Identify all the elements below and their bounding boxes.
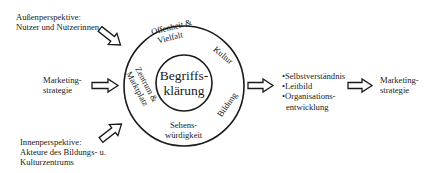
left-marketing-line2: strategie bbox=[43, 85, 82, 95]
arrow-right-1-icon bbox=[248, 79, 273, 92]
outer-perspective-desc: Nutzer und Nutzerinnen bbox=[16, 22, 99, 32]
left-marketing-strategy-label: Marketing- strategie bbox=[43, 75, 82, 95]
outcome-item: entwicklung bbox=[282, 102, 345, 112]
arrow-right-2-icon bbox=[348, 79, 372, 92]
right-marketing-line1: Marketing- bbox=[380, 75, 419, 85]
arrow-top-left-icon bbox=[96, 23, 125, 50]
right-marketing-strategy-label: Marketing- strategie bbox=[380, 75, 419, 95]
right-marketing-line2: strategie bbox=[380, 85, 419, 95]
inner-perspective-title: Innenperspektive: bbox=[20, 137, 106, 147]
outcomes-list: •Selbstverständnis •Leitbild •Organisati… bbox=[282, 71, 345, 112]
outer-perspective-label: Außenperspektive: Nutzer und Nutzerinnen bbox=[16, 12, 99, 32]
outer-perspective-title: Außenperspektive: bbox=[16, 12, 99, 22]
ring-segment-landmark: Sehens- würdigkeit bbox=[165, 120, 202, 140]
ring-landmark-line1: Sehens- bbox=[165, 120, 202, 130]
outcome-item: •Leitbild bbox=[282, 81, 345, 91]
inner-perspective-desc-1: Akteure des Bildungs- u. bbox=[20, 147, 106, 157]
outcome-item: •Selbstverständnis bbox=[282, 71, 345, 81]
core-label: Begriffs- klärung bbox=[156, 68, 212, 98]
core-line1: Begriffs- bbox=[156, 68, 212, 83]
left-marketing-line1: Marketing- bbox=[43, 75, 82, 85]
outcome-item: •Organisations- bbox=[282, 91, 345, 101]
inner-perspective-desc-2: Kulturzentrums bbox=[20, 157, 106, 167]
ring-landmark-line2: würdigkeit bbox=[165, 130, 202, 140]
core-line2: klärung bbox=[156, 83, 212, 98]
arrow-left-icon bbox=[92, 79, 118, 92]
inner-perspective-label: Innenperspektive: Akteure des Bildungs- … bbox=[20, 137, 106, 168]
